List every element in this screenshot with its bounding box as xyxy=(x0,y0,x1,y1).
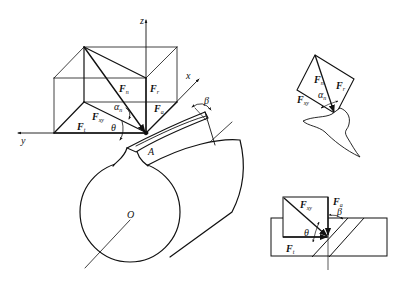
normal-section-view xyxy=(297,55,360,157)
top-view xyxy=(271,197,387,270)
ft-label: Ft xyxy=(76,121,86,133)
tv-beta-label: β xyxy=(336,206,342,217)
alpha-label: αn xyxy=(114,101,122,113)
tv-ft-label: Ft xyxy=(285,243,295,255)
tv-theta-label: θ xyxy=(304,227,309,238)
ns-fr-label: Fr xyxy=(335,80,346,92)
normal-section-labels: Fn Fr Fxy αn xyxy=(296,74,346,106)
theta-angle-arc xyxy=(120,121,123,140)
box-edge xyxy=(146,47,177,78)
diagram-canvas: z y x Fn Fr Fa Fxy Ft αn θ β A O Fn Fr F… xyxy=(0,0,398,289)
y-axis-label: y xyxy=(20,135,26,146)
tooth-profile xyxy=(303,108,360,157)
gear-force-diagram: z y x Fn Fr Fa Fxy Ft αn θ β A O Fn Fr F… xyxy=(0,0,398,289)
axis-line xyxy=(210,122,232,142)
x-axis-label: x xyxy=(185,70,191,81)
force-top-diagonal xyxy=(84,47,146,78)
beta-label: β xyxy=(203,95,209,106)
alpha-n-arc xyxy=(321,101,338,108)
box-edge xyxy=(54,47,84,78)
tooth-tip-edge xyxy=(205,112,215,145)
point-o-label: O xyxy=(127,209,134,220)
fa-label: Fa xyxy=(153,103,164,115)
contact-point xyxy=(144,131,148,135)
theta-label: θ xyxy=(111,122,116,133)
ns-alpha-label: αn xyxy=(318,89,326,101)
fn-label: Fn xyxy=(118,83,129,95)
main-3d-view xyxy=(18,20,243,268)
fxy-label: Fxy xyxy=(91,111,104,123)
point-a-label: A xyxy=(147,146,155,157)
tooth-slant-2 xyxy=(329,218,364,257)
fr-label: Fr xyxy=(149,83,160,95)
z-axis-label: z xyxy=(139,15,144,26)
